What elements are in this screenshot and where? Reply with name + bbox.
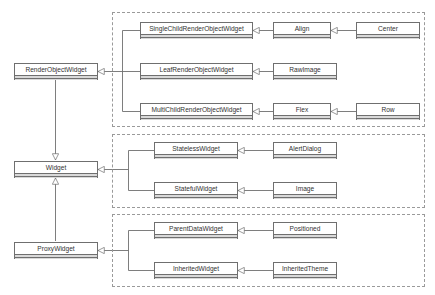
class-name: RawImage [274, 64, 336, 76]
operations-compartment [274, 158, 336, 159]
class-name: MultiChildRenderObjectWidget [141, 104, 252, 116]
class-name: InheritedWidget [155, 263, 237, 275]
class-multi-child-render-object-widget: MultiChildRenderObjectWidget [140, 103, 253, 120]
class-name: LeafRenderObjectWidget [141, 64, 252, 76]
class-parent-data-widget: ParentDataWidget [154, 222, 238, 239]
class-name: Center [357, 23, 419, 35]
class-name: SingleChildRenderObjectWidget [141, 23, 252, 35]
class-name: Align [274, 23, 330, 35]
class-stateless-widget: StatelessWidget [154, 142, 238, 159]
class-positioned: Positioned [273, 222, 337, 239]
class-name: StatelessWidget [155, 143, 237, 155]
class-row: Row [356, 103, 420, 120]
class-image: Image [273, 182, 337, 199]
operations-compartment [155, 158, 237, 159]
class-proxy-widget: ProxyWidget [14, 242, 98, 259]
class-single-child-render-object-widget: SingleChildRenderObjectWidget [140, 22, 253, 39]
class-inherited-widget: InheritedWidget [154, 262, 238, 279]
operations-compartment [274, 119, 330, 120]
operations-compartment [141, 79, 252, 80]
operations-compartment [274, 198, 336, 199]
class-render-object-widget: RenderObjectWidget [14, 63, 98, 80]
class-widget: Widget [14, 161, 98, 178]
operations-compartment [15, 79, 97, 80]
operations-compartment [357, 38, 419, 39]
class-name: Positioned [274, 223, 336, 235]
operations-compartment [274, 278, 336, 279]
class-name: Widget [15, 162, 97, 174]
operations-compartment [274, 238, 336, 239]
operations-compartment [274, 79, 336, 80]
class-name: ProxyWidget [15, 243, 97, 255]
operations-compartment [155, 278, 237, 279]
class-name: RenderObjectWidget [15, 64, 97, 76]
class-hierarchy-diagram: RenderObjectWidget Widget ProxyWidget Si… [0, 0, 435, 295]
operations-compartment [15, 258, 97, 259]
class-name: Row [357, 104, 419, 116]
operations-compartment [155, 238, 237, 239]
class-name: Flex [274, 104, 330, 116]
operations-compartment [155, 198, 237, 199]
operations-compartment [141, 38, 252, 39]
class-name: ParentDataWidget [155, 223, 237, 235]
class-name: Image [274, 183, 336, 195]
class-raw-image: RawImage [273, 63, 337, 80]
class-name: InheritedTheme [274, 263, 336, 275]
class-name: AlertDialog [274, 143, 336, 155]
class-center: Center [356, 22, 420, 39]
operations-compartment [274, 38, 330, 39]
operations-compartment [357, 119, 419, 120]
class-stateful-widget: StatefulWidget [154, 182, 238, 199]
operations-compartment [15, 177, 97, 178]
operations-compartment [141, 119, 252, 120]
class-inherited-theme: InheritedTheme [273, 262, 337, 279]
class-flex: Flex [273, 103, 331, 120]
class-align: Align [273, 22, 331, 39]
class-alert-dialog: AlertDialog [273, 142, 337, 159]
class-name: StatefulWidget [155, 183, 237, 195]
class-leaf-render-object-widget: LeafRenderObjectWidget [140, 63, 253, 80]
